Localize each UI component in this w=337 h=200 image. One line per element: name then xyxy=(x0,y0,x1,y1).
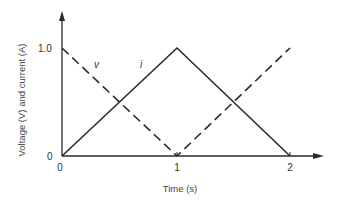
x-tick-label-1: 1 xyxy=(174,162,180,173)
y-axis-arrow-icon xyxy=(59,11,65,21)
series-i-label: i xyxy=(140,59,143,70)
x-axis-arrow-icon xyxy=(313,153,324,159)
series-v-label: v xyxy=(94,59,100,70)
x-axis-title: Time (s) xyxy=(163,183,197,194)
x-tick-label-2: 2 xyxy=(287,162,293,173)
y-axis-title: Voltage (V) and current (A) xyxy=(16,44,27,157)
y-tick-label-1: 1.0 xyxy=(38,43,52,54)
x-tick-label-0: 0 xyxy=(57,162,63,173)
axes xyxy=(59,11,324,159)
y-tick-label-0: 0 xyxy=(47,151,53,162)
voltage-current-chart: 1.0 0 0 1 2 v i Time (s) Voltage (V) and… xyxy=(0,0,337,200)
